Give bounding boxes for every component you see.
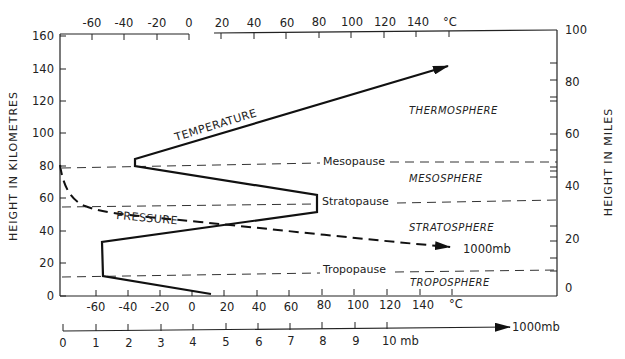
left-tick-20: 20 (39, 256, 54, 270)
top-axis-unit: °C (443, 15, 457, 29)
pressure-axis (63, 322, 510, 331)
top-tick: 100 (341, 15, 363, 29)
top-tick: -20 (148, 16, 167, 30)
top-tick: -40 (115, 16, 134, 30)
pressure-tick: 7 (287, 334, 294, 348)
top-tick: 40 (247, 16, 262, 30)
pressure-curve-end-label: 1000mb (463, 242, 511, 256)
bottom-temp-tick: -20 (151, 300, 170, 314)
mesopause-line (62, 163, 320, 168)
right-axis-title: HEIGHT IN MILES (602, 108, 615, 216)
left-axis-labels: 0 20 40 60 80 100 120 140 160 (32, 29, 54, 303)
right-tick-40: 40 (565, 179, 580, 193)
temperature-curve (102, 66, 448, 294)
bottom-temp-tick: -40 (119, 300, 138, 314)
bottom-temp-tick: 60 (284, 300, 299, 314)
pressure-tick: 4 (189, 335, 196, 349)
pressure-tick-10mb: 10 mb (382, 334, 419, 348)
pressure-tick: 5 (222, 335, 229, 349)
pressure-tick: 1 (92, 336, 99, 350)
left-axis-title: HEIGHT IN KILOMETRES (7, 91, 20, 241)
atmosphere-diagram: 0 20 40 60 80 100 120 140 160 HEIGHT IN … (0, 0, 625, 359)
bottom-temp-tick: 80 (317, 298, 332, 312)
right-tick-80: 80 (565, 75, 580, 89)
left-tick-80: 80 (39, 159, 54, 173)
top-tick: -60 (83, 16, 102, 30)
right-tick-100: 100 (565, 23, 587, 37)
right-axis-ticks (550, 63, 557, 271)
bottom-temp-tick: 40 (252, 300, 267, 314)
top-tick: 0 (185, 16, 192, 30)
stratosphere-label: STRATOSPHERE (409, 222, 494, 233)
pressure-tick: 2 (125, 336, 132, 350)
left-tick-100: 100 (32, 126, 54, 140)
bottom-temp-tick: -60 (87, 300, 106, 314)
left-tick-0: 0 (47, 289, 54, 303)
bottom-temp-unit: °C (449, 297, 463, 311)
stratopause-line (62, 204, 315, 207)
tropopause-line (62, 273, 320, 277)
left-tick-40: 40 (39, 224, 54, 238)
stratopause-label: Stratopause (322, 195, 389, 208)
top-tick: 20 (215, 16, 230, 30)
mesopause-label: Mesopause (323, 155, 385, 168)
pressure-axis-labels: 0 1 2 3 4 5 6 7 8 9 10 mb 1000mb (59, 320, 559, 350)
bottom-temp-tick: 140 (412, 298, 434, 312)
bottom-temp-tick: 120 (379, 298, 401, 312)
top-axis-labels: -60 -40 -20 0 20 40 60 80 100 120 140 °C (83, 15, 457, 30)
top-tick: 80 (312, 15, 327, 29)
troposphere-label: TROPOSPHERE (410, 277, 490, 288)
bottom-temp-tick: 0 (188, 300, 195, 314)
pressure-tick: 0 (59, 336, 66, 350)
top-tick: 140 (407, 15, 429, 29)
mesosphere-label: MESOSPHERE (409, 173, 483, 184)
tropopause-label: Tropopause (322, 263, 386, 276)
right-tick-60: 60 (565, 127, 580, 141)
left-tick-60: 60 (39, 191, 54, 205)
pressure-tick: 6 (255, 335, 262, 349)
left-tick-120: 120 (32, 94, 54, 108)
thermosphere-label: THERMOSPHERE (409, 105, 498, 116)
bottom-temp-labels: -60 -40 -20 0 20 40 60 80 100 120 140 °C (87, 297, 463, 314)
top-tick: 60 (280, 16, 295, 30)
left-tick-160: 160 (32, 29, 54, 43)
right-tick-0: 0 (565, 281, 572, 295)
pressure-label: PRESSURE (116, 209, 179, 227)
left-tick-140: 140 (32, 62, 54, 76)
bottom-temp-tick: 20 (220, 300, 235, 314)
pressure-tick: 9 (352, 334, 359, 348)
bottom-temp-tick: 100 (347, 298, 369, 312)
pressure-curve (60, 165, 450, 247)
top-tick: 120 (374, 15, 396, 29)
pressure-tick: 8 (319, 334, 326, 348)
pressure-tick: 3 (157, 336, 164, 350)
right-axis-labels: 0 20 40 60 80 100 (565, 23, 587, 295)
right-tick-20: 20 (565, 232, 580, 246)
pressure-axis-end-label: 1000mb (512, 320, 560, 334)
bottom-temp-ticks (96, 289, 452, 296)
